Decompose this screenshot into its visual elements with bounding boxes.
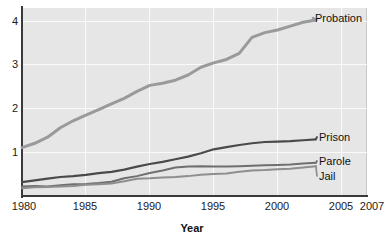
series-line-prison — [22, 139, 316, 182]
series-label-jail: Jail — [319, 170, 336, 182]
series-line-parole — [22, 163, 316, 187]
line-chart: 4 3 2 1 1980 1985 1990 1995 2000 2005 20… — [0, 0, 384, 244]
series-line-probation — [22, 20, 316, 148]
series-leader-jail — [316, 166, 317, 176]
series-leader-parole — [316, 161, 317, 163]
series-label-probation: Probation — [315, 12, 362, 24]
x-axis-title: Year — [0, 222, 384, 234]
series-label-prison: Prison — [319, 131, 350, 143]
series-label-parole: Parole — [319, 155, 351, 167]
series-lines-layer — [0, 0, 384, 244]
series-leader-prison — [316, 137, 317, 139]
